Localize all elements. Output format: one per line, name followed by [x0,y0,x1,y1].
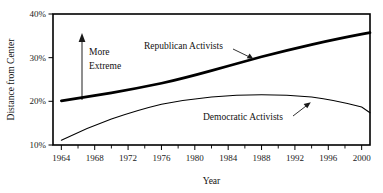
series-label-democratic: Democratic Activists [203,112,283,122]
y-axis-title: Distance from Center [6,38,16,121]
y-tick-label-30: 30% [30,53,47,63]
x-tick-label-1968: 1968 [86,153,105,163]
y-tick-label-40: 40% [30,9,47,19]
more-extreme-label-line2: Extreme [89,61,121,71]
more-extreme-label-line1: More [89,47,110,57]
y-tick-label-20: 20% [30,96,47,106]
x-tick-label-1996: 1996 [319,153,338,163]
x-axis-title: Year [203,176,221,186]
chart-figure: 40% 30% 20% 10% Distance from Center [0,0,383,193]
series-label-republican: Republican Activists [144,41,223,51]
x-tick-label-1972: 1972 [119,153,137,163]
line-chart: 40% 30% 20% 10% Distance from Center [0,0,383,193]
y-tick-label-10: 10% [30,140,47,150]
plot-frame [53,14,370,145]
x-tick-label-1964: 1964 [52,153,71,163]
x-tick-label-1980: 1980 [186,153,205,163]
x-tick-label-1988: 1988 [253,153,272,163]
x-tick-label-1976: 1976 [152,153,171,163]
x-tick-label-2000: 2000 [353,153,372,163]
x-tick-label-1984: 1984 [219,153,238,163]
x-tick-label-1992: 1992 [286,153,304,163]
